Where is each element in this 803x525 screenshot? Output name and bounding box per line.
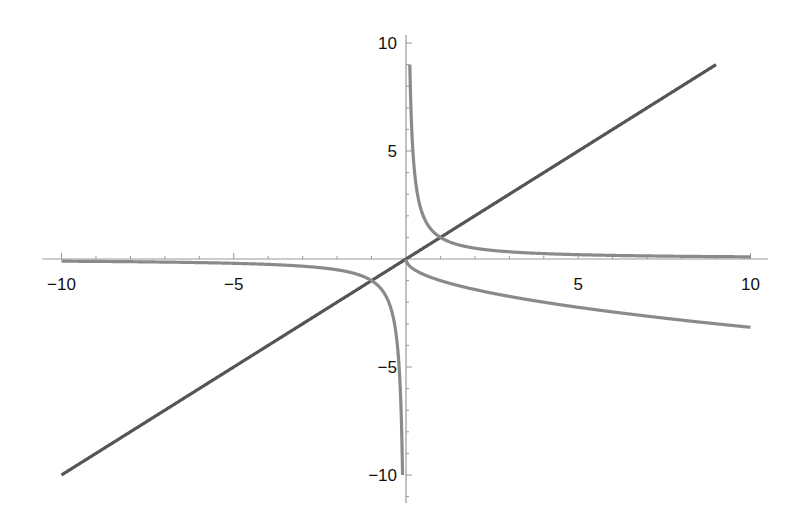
x-tick-label: 10 bbox=[741, 275, 760, 294]
x-tick-label: 5 bbox=[574, 275, 583, 294]
x-tick-label: −5 bbox=[224, 275, 243, 294]
y-tick-label: 10 bbox=[378, 34, 397, 53]
series-line-y-equals-x bbox=[62, 65, 717, 475]
function-plot: −10−5510105−5−10 bbox=[0, 0, 803, 525]
y-tick-label: 5 bbox=[388, 142, 397, 161]
series-curve-1 bbox=[410, 64, 751, 256]
y-tick-label: −5 bbox=[378, 358, 397, 377]
axes bbox=[42, 35, 768, 503]
y-tick-label: −10 bbox=[368, 466, 397, 485]
x-tick-label: −10 bbox=[47, 275, 76, 294]
